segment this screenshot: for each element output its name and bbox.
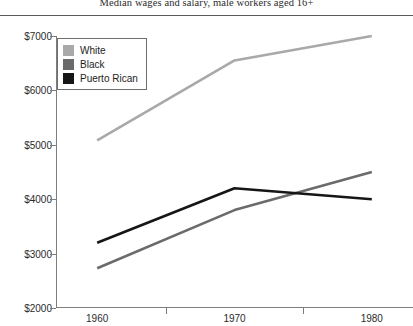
x-axis-labels: 196019701980 xyxy=(0,312,413,326)
chart-legend: WhiteBlackPuerto Rican xyxy=(57,38,147,90)
x-axis-tick-label: 1960 xyxy=(86,313,108,324)
legend-label: Black xyxy=(80,59,104,70)
legend-item: White xyxy=(63,43,138,57)
legend-item: Puerto Rican xyxy=(63,71,138,85)
y-axis-tick-label: $6000 xyxy=(0,85,52,96)
legend-swatch-icon xyxy=(63,59,74,70)
legend-swatch-icon xyxy=(63,45,74,56)
x-axis-tick-label: 1980 xyxy=(361,313,383,324)
y-axis-tick-label: $7000 xyxy=(0,31,52,42)
legend-label: Puerto Rican xyxy=(80,73,138,84)
title-divider xyxy=(0,15,413,16)
y-axis-tick xyxy=(50,308,56,309)
y-axis-tick-label: $4000 xyxy=(0,194,52,205)
legend-item: Black xyxy=(63,57,138,71)
y-axis-labels: $2000$3000$4000$5000$6000$7000 xyxy=(0,0,52,326)
y-axis-tick-label: $3000 xyxy=(0,248,52,259)
legend-swatch-icon xyxy=(63,73,74,84)
legend-label: White xyxy=(80,45,106,56)
chart-title: Median wages and salary, male workers ag… xyxy=(0,0,413,8)
chart-figure: Median wages and salary, male workers ag… xyxy=(0,0,413,326)
x-axis-tick-label: 1970 xyxy=(223,313,245,324)
y-axis-tick-label: $5000 xyxy=(0,139,52,150)
